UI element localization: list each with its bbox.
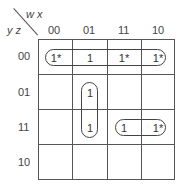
- row-variables-label: y z: [7, 24, 21, 36]
- row-header-10: 10: [18, 156, 30, 168]
- row-00-group-loop: [45, 49, 166, 66]
- col-header-10: 10: [152, 24, 164, 36]
- cell-11-00: [39, 110, 73, 145]
- cell-01-00: [39, 75, 73, 110]
- cell-10-01: [73, 145, 107, 180]
- row-header-00: 00: [18, 50, 30, 62]
- cell-10-10: [141, 145, 175, 180]
- col-01-group-loop: [81, 82, 98, 138]
- row-header-11: 11: [18, 121, 29, 133]
- cell-01-10: [141, 75, 175, 110]
- col-header-01: 01: [83, 24, 95, 36]
- cell-01-11: [107, 75, 141, 110]
- kmap-grid: 1* 1 1* 1* 1 1 1 1*: [38, 39, 175, 180]
- column-variables-label: w x: [26, 8, 43, 20]
- cell-10-11: [107, 145, 141, 180]
- col-header-00: 00: [48, 24, 60, 36]
- row-11-group-loop: [115, 119, 166, 136]
- cell-10-00: [39, 145, 73, 180]
- row-header-01: 01: [18, 86, 30, 98]
- col-header-11: 11: [118, 24, 129, 36]
